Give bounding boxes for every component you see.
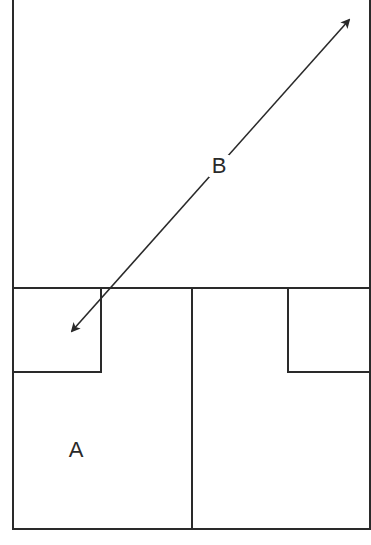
small-box-left [13,288,101,372]
label-b: B [209,155,230,177]
label-a: A [66,439,87,461]
notch-right [288,288,370,372]
floor-plan-diagram [0,0,371,545]
